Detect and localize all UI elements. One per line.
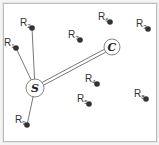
controller-node: C	[104, 39, 120, 55]
node-r1: R1	[4, 37, 19, 51]
node-label: R2	[20, 17, 31, 29]
node-r5: R5	[77, 93, 92, 107]
node-label: R7	[68, 29, 79, 41]
node-label: R3	[136, 18, 147, 30]
node-r7: R7	[68, 29, 83, 43]
node-r4: R4	[85, 73, 100, 87]
source-node: S	[26, 79, 44, 97]
node-r6: R6	[98, 11, 113, 25]
node-label: R8	[134, 88, 145, 100]
source-node-label: S	[31, 82, 39, 95]
link-s-c	[42, 49, 105, 85]
node-label: R1	[4, 37, 15, 49]
node-r3: R3	[136, 18, 151, 32]
network-diagram: R1R2R3R4R5R6R7R8R9SC	[0, 0, 159, 145]
controller-node-label: C	[108, 41, 117, 54]
node-label: R6	[98, 11, 109, 23]
node-r8: R8	[134, 88, 149, 102]
node-label: R4	[85, 73, 96, 85]
node-label: R5	[77, 93, 88, 105]
node-r2: R2	[20, 17, 35, 31]
node-label: R9	[15, 114, 26, 126]
